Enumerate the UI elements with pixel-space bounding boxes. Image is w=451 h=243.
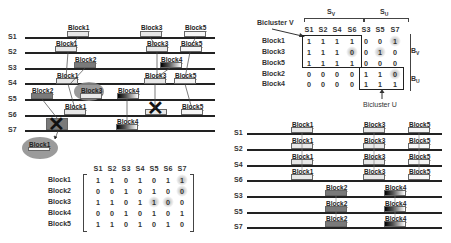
column-header: S6	[161, 164, 175, 173]
matrix-cell: 0	[91, 209, 105, 218]
row-label: Block5	[262, 59, 285, 66]
matrix-cell: 1	[147, 198, 161, 207]
matrix-cell: 0	[147, 176, 161, 185]
group-brace-su	[364, 18, 409, 22]
matrix-bracket-right	[190, 174, 194, 232]
row-label: Block2	[48, 187, 71, 194]
matrix-cell: 1	[105, 220, 119, 229]
column-header: S3	[119, 164, 133, 173]
matrix-cell: 1	[119, 187, 133, 196]
connector-lines	[230, 120, 451, 235]
matrix-cell: 0	[330, 70, 344, 79]
matrix-cell: 1	[388, 80, 402, 89]
matrix-cell: 0	[302, 80, 316, 89]
matrix-cell: 0	[119, 176, 133, 185]
matrix-cell: 1	[147, 187, 161, 196]
matrix-cell: 0	[345, 80, 359, 89]
matrix-cell: 1	[359, 70, 373, 79]
matrix-cell: 0	[91, 187, 105, 196]
matrix-cell: 1	[373, 48, 387, 57]
matrix-cell: 0	[316, 70, 330, 79]
matrix-cell: 0	[302, 70, 316, 79]
matrix-cell: 1	[330, 48, 344, 57]
bicluster-v-label: Bicluster V	[257, 19, 294, 26]
matrix-cell: 1	[105, 176, 119, 185]
matrix-cell: 0	[119, 220, 133, 229]
matrix-cell: 1	[175, 176, 189, 185]
matrix-cell: 1	[133, 198, 147, 207]
column-header: S6	[345, 25, 359, 34]
matrix-cell: 1	[119, 209, 133, 218]
bv-label: BV	[411, 47, 419, 56]
matrix-cell: 1	[91, 176, 105, 185]
column-header: S3	[359, 25, 373, 34]
matrix-cell: 0	[373, 37, 387, 46]
column-header: S7	[388, 25, 402, 34]
matrix-cell: 0	[161, 187, 175, 196]
matrix-cell: 1	[302, 59, 316, 68]
matrix-cell: 0	[359, 48, 373, 57]
column-header: S7	[175, 164, 189, 173]
column-header: S4	[133, 164, 147, 173]
matrix-cell: 0	[373, 59, 387, 68]
bu-label: BU	[411, 75, 420, 84]
matrix-cell: 1	[147, 209, 161, 218]
row-label: Block4	[262, 80, 285, 87]
matrix-cell: 0	[147, 220, 161, 229]
matrix-cell: 1	[345, 59, 359, 68]
matrix-cell: 1	[161, 220, 175, 229]
matrix-cell: 0	[345, 70, 359, 79]
matrix-cell: 0	[175, 198, 189, 207]
group-label-su: SU	[380, 8, 388, 17]
matrix-cell: 1	[316, 48, 330, 57]
matrix-cell: 0	[161, 198, 175, 207]
matrix-cell: 0	[133, 209, 147, 218]
matrix-cell: 1	[133, 176, 147, 185]
group-label-sv: SV	[327, 8, 335, 17]
matrix-cell: 0	[345, 48, 359, 57]
matrix-cell: 1	[91, 198, 105, 207]
matrix-cell: 0	[388, 59, 402, 68]
matrix-cell: 0	[105, 187, 119, 196]
matrix-cell: 0	[175, 187, 189, 196]
matrix-cell: 1	[91, 220, 105, 229]
row-label: Block5	[48, 220, 71, 227]
matrix-cell: 0	[330, 80, 344, 89]
column-header: S1	[302, 25, 316, 34]
matrix-cell: 0	[388, 48, 402, 57]
row-label: Block3	[48, 198, 71, 205]
matrix-cell: 1	[161, 176, 175, 185]
matrix-cell: 1	[345, 37, 359, 46]
matrix-cell: 0	[359, 37, 373, 46]
connector-lines	[0, 0, 230, 160]
column-header: S5	[147, 164, 161, 173]
matrix-cell: 0	[316, 80, 330, 89]
matrix-cell: 0	[133, 187, 147, 196]
matrix-cell: 0	[388, 70, 402, 79]
column-header: S5	[373, 25, 387, 34]
column-header: S2	[316, 25, 330, 34]
matrix-cell: 0	[359, 59, 373, 68]
matrix-cell: 0	[161, 209, 175, 218]
matrix-cell: 1	[373, 80, 387, 89]
matrix-cell: 1	[175, 209, 189, 218]
matrix-cell: 0	[175, 220, 189, 229]
matrix-cell: 1	[302, 37, 316, 46]
row-label: Block2	[262, 70, 285, 77]
matrix-cell: 1	[105, 198, 119, 207]
matrix-bracket-left	[83, 174, 87, 232]
matrix-cell: 1	[302, 48, 316, 57]
column-header: S1	[91, 164, 105, 173]
matrix-cell: 1	[388, 37, 402, 46]
matrix-cell: 1	[373, 70, 387, 79]
group-brace-sv	[304, 18, 364, 22]
matrix-cell: 1	[316, 59, 330, 68]
bicluster-u-label: Bicluster U	[363, 101, 397, 108]
row-label: Block1	[48, 176, 71, 183]
row-label: Block4	[48, 209, 71, 216]
row-label: Block1	[262, 37, 285, 44]
arrow-up-icon	[378, 89, 386, 99]
matrix-cell: 1	[330, 59, 344, 68]
matrix-cell: 1	[133, 220, 147, 229]
matrix-cell: 1	[330, 37, 344, 46]
